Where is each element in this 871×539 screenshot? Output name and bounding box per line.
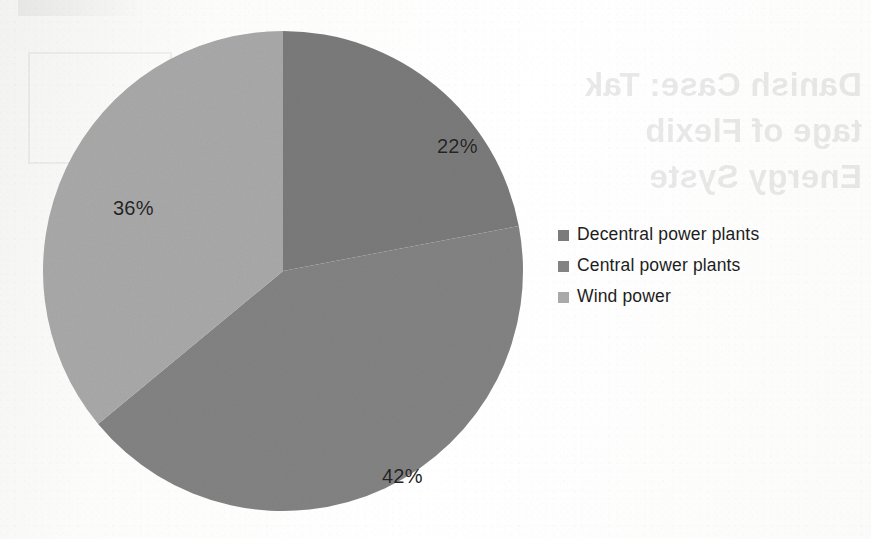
legend-swatch-icon xyxy=(558,292,569,303)
legend-item-central-power-plants[interactable]: Central power plants xyxy=(558,250,759,281)
pie-slice-label-central: 42% xyxy=(382,465,423,488)
pie-chart: 22% 42% 36% Decentral power plants Centr… xyxy=(0,0,871,539)
legend-swatch-icon xyxy=(558,261,569,272)
legend-item-label: Decentral power plants xyxy=(577,224,759,245)
legend-item-label: Wind power xyxy=(577,286,671,307)
legend-swatch-icon xyxy=(558,230,569,241)
legend-item-decentral-power-plants[interactable]: Decentral power plants xyxy=(558,219,759,250)
pie-slice-label-wind: 36% xyxy=(113,197,154,220)
pie-svg xyxy=(43,31,523,511)
legend-item-wind-power[interactable]: Wind power xyxy=(558,281,759,312)
pie-slice-label-decentral: 22% xyxy=(437,135,478,158)
chart-legend: Decentral power plants Central power pla… xyxy=(558,219,759,312)
pie-graphic: 22% 42% 36% xyxy=(43,31,523,511)
pie-chart-page: Danish Case: Tak tage of Flexib Energy S… xyxy=(0,0,871,539)
legend-item-label: Central power plants xyxy=(577,255,741,276)
